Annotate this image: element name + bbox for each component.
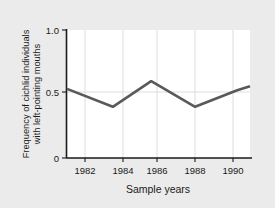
- y-tick-label-0-5: 0.5: [46, 87, 59, 98]
- x-axis-title: Sample years: [126, 183, 190, 195]
- y-axis-title-line2: with left-pointing mouths: [32, 44, 42, 146]
- y-tick-label-1-0: 1.0: [46, 25, 59, 36]
- x-tick-label-1986: 1986: [146, 165, 167, 176]
- x-tick-label-1982: 1982: [74, 165, 95, 176]
- chart-figure: 1.0 0.5 0 1982 1984 1986 1988 1990 Sampl…: [0, 0, 275, 208]
- y-axis-title-line1: Frequency of cichlid individuals: [21, 29, 31, 158]
- x-tick-label-1988: 1988: [184, 165, 205, 176]
- y-tick-label-0: 0: [54, 153, 59, 164]
- x-tick-label-1984: 1984: [112, 165, 133, 176]
- x-tick-label-1990: 1990: [222, 165, 243, 176]
- line-chart: 1.0 0.5 0 1982 1984 1986 1988 1990 Sampl…: [0, 0, 275, 208]
- plot-panel: [66, 30, 250, 158]
